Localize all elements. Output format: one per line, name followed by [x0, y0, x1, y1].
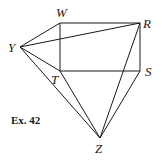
segment-YR — [20, 23, 140, 47]
label-W: W — [56, 5, 68, 20]
label-R: R — [142, 16, 151, 31]
segment-TZ — [60, 71, 100, 138]
label-Y: Y — [8, 40, 17, 55]
label-Z: Z — [95, 141, 103, 156]
figure-caption: Ex. 42 — [11, 114, 41, 126]
segment-YT — [20, 47, 60, 71]
point-labels: W R Y T S Z — [8, 5, 152, 156]
label-S: S — [145, 64, 152, 79]
label-T: T — [51, 72, 59, 87]
geometry-figure: W R Y T S Z Ex. 42 — [0, 0, 162, 160]
